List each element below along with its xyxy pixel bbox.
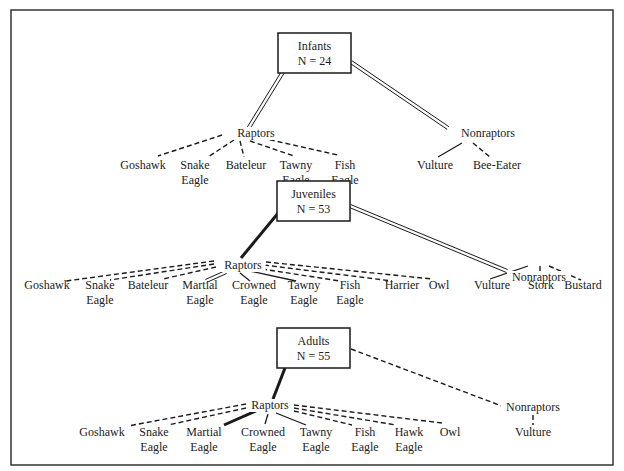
species-label: Fish bbox=[340, 278, 361, 292]
species-label: Eagle bbox=[190, 440, 217, 454]
species-label: Snake bbox=[85, 278, 114, 292]
age-group-label: Infants bbox=[298, 39, 332, 53]
link-raptors-fish-eagle-dashed bbox=[262, 138, 338, 155]
link-raptors-goshawk-dashed bbox=[158, 135, 222, 156]
species-label: Goshawk bbox=[79, 425, 124, 439]
species-label: Snake bbox=[180, 158, 209, 172]
species-label: Vulture bbox=[417, 158, 453, 172]
species-label: Eagle bbox=[140, 440, 167, 454]
species-label: Crowned bbox=[241, 425, 285, 439]
link-adults-nonraptors-dashed bbox=[351, 349, 507, 408]
link-raptors-fish-eagle-dashed bbox=[294, 411, 352, 425]
species-label: Owl bbox=[440, 425, 461, 439]
panel-juveniles: JuvenilesN = 53RaptorsNonraptorsGoshawkS… bbox=[24, 181, 601, 307]
species-label: Eagle bbox=[290, 293, 317, 307]
species-label: Bateleur bbox=[128, 278, 169, 292]
sample-size-label: N = 24 bbox=[298, 54, 331, 68]
species-label: Owl bbox=[429, 278, 450, 292]
link-raptors-snake-eagle-dashed bbox=[208, 140, 234, 157]
species-label: Eagle bbox=[86, 293, 113, 307]
group-label-raptors: Raptors bbox=[251, 398, 289, 412]
species-label: Vulture bbox=[474, 278, 510, 292]
species-label: Bateleur bbox=[226, 158, 267, 172]
species-label: Eagle bbox=[240, 293, 267, 307]
group-label-raptors: Raptors bbox=[224, 258, 262, 272]
group-label-nonraptors: Nonraptors bbox=[461, 126, 515, 140]
age-group-label: Adults bbox=[297, 334, 329, 348]
panel-infants: InfantsN = 24RaptorsNonraptorsGoshawkSna… bbox=[120, 33, 521, 187]
species-label: Tawny bbox=[288, 278, 320, 292]
social-choice-diagram: InfantsN = 24RaptorsNonraptorsGoshawkSna… bbox=[0, 0, 624, 471]
species-label: Crowned bbox=[232, 278, 276, 292]
sample-size-label: N = 55 bbox=[297, 349, 330, 363]
link-infants-raptors-double bbox=[249, 73, 284, 130]
species-label: Bee-Eater bbox=[473, 158, 521, 172]
group-label-nonraptors: Nonraptors bbox=[506, 400, 560, 414]
link-juveniles-nonraptors-double bbox=[351, 205, 508, 270]
age-group-label: Juveniles bbox=[291, 187, 336, 201]
species-label: Goshawk bbox=[120, 158, 165, 172]
link-infants-nonraptors-double bbox=[352, 61, 449, 127]
species-label: Goshawk bbox=[24, 278, 69, 292]
species-label: Martial bbox=[182, 278, 218, 292]
link-juveniles-nonraptors-double bbox=[349, 207, 506, 272]
species-label: Tawny bbox=[300, 425, 332, 439]
species-label: Eagle bbox=[181, 173, 208, 187]
species-label: Fish bbox=[335, 158, 356, 172]
species-label: Vulture bbox=[515, 425, 551, 439]
panels-layer: InfantsN = 24RaptorsNonraptorsGoshawkSna… bbox=[24, 33, 601, 454]
link-raptors-tawny-eagle-solid bbox=[276, 413, 306, 425]
species-label: Eagle bbox=[395, 440, 422, 454]
species-label: Eagle bbox=[249, 440, 276, 454]
species-label: Eagle bbox=[336, 293, 363, 307]
link-raptors-crowned-eagle-solid bbox=[265, 414, 268, 424]
sample-size-label: N = 53 bbox=[297, 202, 330, 216]
link-juveniles-raptors-thick bbox=[241, 212, 279, 258]
species-label: Hawk bbox=[395, 425, 424, 439]
species-label: Eagle bbox=[186, 293, 213, 307]
species-label: Eagle bbox=[351, 440, 378, 454]
link-infants-nonraptors-double bbox=[350, 63, 447, 129]
species-label: Martial bbox=[186, 425, 222, 439]
panel-adults: AdultsN = 55RaptorsNonraptorsGoshawkSnak… bbox=[79, 328, 565, 454]
species-label: Fish bbox=[355, 425, 376, 439]
link-adults-raptors-thick bbox=[273, 368, 285, 399]
species-label: Eagle bbox=[302, 440, 329, 454]
link-nonraptors-bee-eater-dashed bbox=[473, 143, 490, 157]
species-label: Snake bbox=[139, 425, 168, 439]
species-label: Stork bbox=[528, 278, 554, 292]
species-label: Harrier bbox=[385, 278, 420, 292]
species-label: Bustard bbox=[564, 278, 601, 292]
link-raptors-owl-dashed bbox=[266, 262, 432, 279]
link-raptors-bateleur-dashed bbox=[240, 141, 244, 157]
diagram-frame bbox=[11, 10, 613, 465]
link-nonraptors-vulture-solid bbox=[438, 143, 462, 157]
link-infants-raptors-double bbox=[247, 71, 282, 128]
species-label: Tawny bbox=[280, 158, 312, 172]
group-label-raptors: Raptors bbox=[237, 126, 275, 140]
